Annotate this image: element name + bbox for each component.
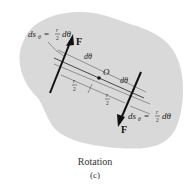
ds-bottom-label: ds (128, 111, 137, 121)
caption-sub: (c) (90, 170, 100, 180)
point-o (97, 76, 101, 80)
caption-title: Rotation (78, 156, 112, 167)
ds-top-sub: θ (38, 34, 41, 40)
force-bottom-label: F (121, 124, 127, 135)
ds-top-frac-den: 2 (56, 35, 59, 41)
r-half-left-den: 2 (73, 86, 76, 92)
force-top-label: F (76, 36, 82, 47)
ds-bottom-eq: = (144, 111, 149, 121)
origin-label: O (103, 67, 110, 77)
ds-bottom-frac-den: 2 (156, 117, 159, 123)
dtheta-mid-label: dθ (120, 76, 128, 85)
ds-top-label: ds (28, 29, 37, 39)
ds-top-eq: = (44, 29, 49, 39)
rotation-diagram: ds θ = r 2 dθ F dθ O dθ r 2 r 2 ds θ = r… (0, 0, 190, 188)
ds-top-tail: dθ (62, 29, 72, 39)
ds-bottom-sub: θ (138, 116, 141, 122)
dtheta-top-label: dθ (84, 52, 92, 61)
ds-bottom-tail: dθ (162, 111, 172, 121)
r-half-right-den: 2 (106, 100, 109, 106)
